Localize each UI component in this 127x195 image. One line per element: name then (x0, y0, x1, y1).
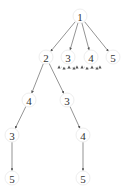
node-label: 3 (9, 130, 15, 142)
node-label: 3 (64, 95, 70, 107)
tree-node: 5 (76, 171, 90, 185)
pruned-arrowhead-icon (75, 66, 78, 69)
pruned-arrowhead-icon (98, 66, 101, 69)
node-label: 1 (77, 11, 83, 23)
pruned-arrowhead-icon (72, 67, 75, 70)
pruned-arrowhead-icon (85, 67, 88, 70)
nodes: 12345433455 (5, 9, 120, 185)
tree-node: 4 (76, 128, 90, 142)
pruned-branches (57, 66, 101, 70)
tree-node: 5 (106, 50, 120, 64)
edge (32, 64, 44, 94)
edge (70, 106, 80, 128)
node-label: 5 (9, 173, 15, 185)
node-label: 2 (43, 52, 49, 64)
tree-node: 3 (5, 128, 19, 142)
edge (51, 21, 76, 51)
tree-node: 1 (73, 9, 87, 23)
tree-node: 3 (60, 93, 74, 107)
edge (49, 63, 64, 93)
tree-diagram: 12345433455 (0, 0, 127, 195)
pruned-arrowhead-icon (62, 67, 65, 70)
pruned-arrowhead-icon (95, 67, 98, 70)
tree-node: 2 (39, 50, 53, 64)
pruned-arrowhead-icon (80, 66, 83, 69)
node-label: 5 (80, 173, 86, 185)
tree-node: 5 (5, 171, 19, 185)
pruned-arrowhead-icon (57, 66, 60, 69)
tree-node: 3 (61, 50, 75, 64)
tree-node: 4 (22, 93, 36, 107)
pruned-arrowhead-icon (67, 66, 70, 69)
node-label: 3 (65, 52, 71, 64)
node-label: 4 (88, 52, 94, 64)
node-label: 4 (26, 95, 32, 107)
node-label: 5 (110, 52, 116, 64)
edge (15, 106, 26, 128)
pruned-arrowhead-icon (90, 66, 93, 69)
tree-node: 4 (84, 50, 98, 64)
edge (82, 23, 89, 50)
node-label: 4 (80, 130, 86, 142)
